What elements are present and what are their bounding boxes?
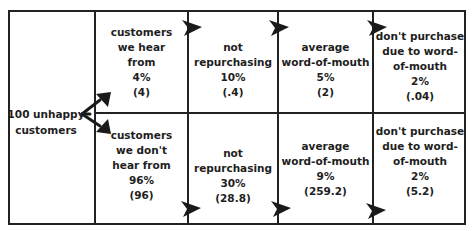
cell-label-line: from: [128, 55, 156, 70]
cell-label-line: due to word-: [382, 44, 458, 59]
cell-count: (28.8): [215, 191, 251, 206]
cell-label-line: don't purchase: [376, 29, 464, 44]
customer-complaint-flow-diagram: 100 unhappy customers customers we hear …: [0, 0, 475, 231]
cell-label-line: word-of-mouth: [281, 154, 369, 169]
root-label-line1: 100 unhappy: [8, 106, 85, 122]
cell-percent: 2%: [411, 169, 429, 184]
cell-label-line: don't purchase: [376, 124, 464, 139]
cell-label-line: of-mouth: [393, 59, 447, 74]
cell-percent: 96%: [129, 173, 154, 188]
cell-percent: 9%: [317, 169, 335, 184]
cell-label-line: of-mouth: [393, 154, 447, 169]
arrowhead-right-icon: [268, 19, 290, 37]
cell-label-line: we hear: [118, 40, 165, 55]
arrowhead-right-icon: [365, 202, 387, 220]
cell-count: (4): [133, 85, 150, 100]
cell-percent: 10%: [220, 70, 245, 85]
cell-count: (2): [317, 85, 334, 100]
cell-count: (.04): [406, 89, 434, 104]
arrowhead-right-icon: [366, 19, 388, 37]
cell-label-line: word-of-mouth: [281, 55, 369, 70]
cell-percent: 5%: [317, 70, 335, 85]
cell-percent: 30%: [220, 176, 245, 191]
cell-label-line: repurchasing: [194, 161, 272, 176]
cell-average-word-of-mouth-heard: average word-of-mouth 5% (2): [279, 22, 372, 118]
cell-label-line: repurchasing: [194, 55, 272, 70]
cell-not-repurchasing-unheard: not repurchasing 30% (28.8): [189, 132, 277, 220]
cell-label-line: hear from: [112, 158, 170, 173]
root-label-line2: customers: [15, 122, 77, 138]
cell-label-line: customers: [111, 25, 173, 40]
cell-percent: 4%: [133, 70, 151, 85]
cell-label-line: due to word-: [382, 139, 458, 154]
cell-label-line: average: [302, 139, 350, 154]
arrowhead-right-icon: [181, 19, 203, 37]
cell-percent: 2%: [411, 74, 429, 89]
arrowhead-right-icon: [180, 200, 202, 218]
cell-label-line: average: [302, 40, 350, 55]
cell-label-line: customers: [111, 128, 173, 143]
cell-average-word-of-mouth-unheard: average word-of-mouth 9% (259.2): [279, 126, 372, 212]
cell-count: (96): [129, 188, 153, 203]
fork-arrow-icon: [78, 90, 118, 136]
cell-label-line: not: [223, 40, 243, 55]
root-cell-unhappy-customers: 100 unhappy customers: [10, 12, 82, 223]
cell-label-line: we don't: [116, 143, 167, 158]
cell-count: (259.2): [304, 184, 347, 199]
cell-count: (5.2): [406, 184, 434, 199]
cell-label-line: not: [223, 146, 243, 161]
cell-dont-purchase-unheard: don't purchase due to word- of-mouth 2% …: [374, 118, 466, 204]
cell-count: (.4): [223, 85, 244, 100]
arrowhead-right-icon: [270, 200, 292, 218]
